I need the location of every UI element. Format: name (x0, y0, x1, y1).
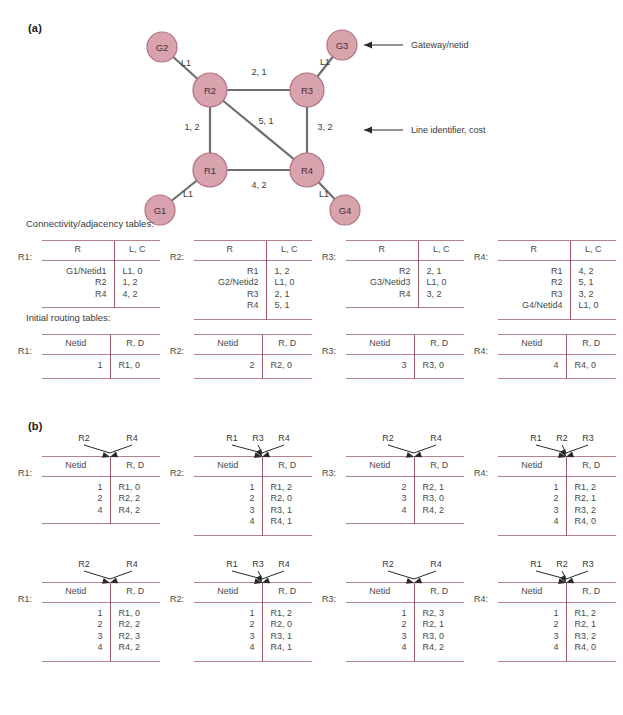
table-cell-key: 4 (194, 516, 262, 528)
table-cell-key: 2 (194, 619, 262, 631)
table-spacer (566, 654, 616, 662)
table-header-row: NetidR, D (42, 335, 160, 354)
table-cell-value: 5, 1 (266, 300, 312, 312)
table-header-row: NetidR, D (498, 457, 616, 476)
update-arrow-line (414, 571, 436, 579)
table-header-cell: R (498, 241, 570, 260)
update-arrow-line (536, 445, 566, 453)
table-cell-value: R4, 1 (262, 516, 312, 528)
table-row: 3R3, 2 (498, 631, 616, 643)
update-source-label: R2 (382, 433, 394, 443)
routing-table: NetidR, D1R1, 22R2, 13R3, 24R4, 0 (498, 456, 616, 536)
table-header-row: RL, C (42, 241, 160, 260)
table-cell-key: 3 (346, 493, 414, 505)
update-source-label: R1 (530, 559, 542, 569)
table-cell-value: R3, 0 (414, 360, 464, 372)
table-router-label: R2: (170, 346, 184, 356)
table-header-cell: Netid (346, 583, 414, 602)
table-spacer (414, 371, 464, 379)
update-arrow-line (232, 571, 262, 579)
table-cell-key: 1 (194, 482, 262, 494)
table-row: 1R1, 2 (194, 608, 312, 620)
table-row: 2R2, 2 (42, 493, 160, 505)
table-row: 4R4, 0 (498, 516, 616, 528)
table-header-cell: R, D (566, 583, 616, 602)
table-spacer (114, 300, 160, 308)
table-cell-key: 2 (346, 482, 414, 494)
table-cell-value: R4, 0 (566, 516, 616, 528)
table-cell-value: R2, 3 (110, 631, 160, 643)
network-node-R2: R2 (193, 73, 227, 107)
table-header-cell: R (42, 241, 114, 260)
table-row: 3R3, 2 (498, 505, 616, 517)
routing-table: NetidR, D4R4, 0 (498, 334, 616, 379)
table-rule (194, 379, 312, 380)
table-spacer (570, 312, 616, 320)
edge-label-G3-R3: L1 (320, 57, 330, 67)
table-cell-value: R1, 2 (262, 608, 312, 620)
table-cell-value: 4, 2 (570, 266, 616, 278)
update-arrow-line (566, 571, 588, 579)
network-node-label: G2 (156, 42, 169, 53)
table-cell-key: 2 (346, 619, 414, 631)
table-spacer (110, 516, 160, 524)
routing-table: NetidR, D1R1, 02R2, 24R4, 2 (42, 456, 160, 524)
table-header-cell: Netid (498, 457, 566, 476)
table-cell-value: R2, 1 (566, 619, 616, 631)
table-row: G2/Netid2L1, 0 (194, 277, 312, 289)
table-cell-value: R4, 2 (110, 505, 160, 517)
table-rule (42, 379, 160, 380)
incoming-update-arrows: R2R4 (368, 558, 526, 584)
table-spacer (346, 300, 418, 308)
routing-table: NetidR, D2R2, 0 (194, 334, 312, 379)
network-node-R3: R3 (290, 73, 324, 107)
table-spacer (566, 528, 616, 536)
edge-label-R2-R3: 2, 1 (251, 67, 266, 77)
table-header-cell: R (346, 241, 418, 260)
table-cell-value: 3, 2 (570, 289, 616, 301)
table-rule (346, 524, 464, 525)
table-row: 2R2, 0 (194, 360, 312, 372)
table-cell-key: 2 (498, 493, 566, 505)
table-cell-key: R3 (498, 289, 570, 301)
network-node-label: G1 (154, 205, 167, 216)
table-cell-key: 3 (194, 505, 262, 517)
table-row: 3R2, 3 (42, 631, 160, 643)
table-header-row: NetidR, D (194, 335, 312, 354)
table-row: 3R3, 1 (194, 505, 312, 517)
update-source-label: R4 (278, 433, 290, 443)
table-cell-value: R2, 0 (262, 619, 312, 631)
table-header-cell: R, D (262, 335, 312, 354)
table-spacer (498, 371, 566, 379)
update-arrow-line (562, 571, 566, 579)
table-spacer (110, 654, 160, 662)
network-topology-diagram: G2G3G1G4R2R3R1R4L1L1L1L12, 11, 23, 25, 1… (120, 20, 520, 235)
update-arrow-line (388, 445, 414, 453)
table-row: 4R4, 1 (194, 516, 312, 528)
table-header-cell: R, D (110, 583, 160, 602)
table-row: 2R2, 0 (194, 619, 312, 631)
table-router-label: R2: (170, 468, 184, 478)
annotation-arrowhead (364, 42, 372, 49)
table-cell-value: R1, 2 (262, 482, 312, 494)
table-row: 1R1, 0 (42, 482, 160, 494)
table-cell-value: R3, 0 (414, 493, 464, 505)
update-source-label: R2 (78, 559, 90, 569)
update-source-label: R3 (582, 433, 594, 443)
table-cell-value: R2, 3 (414, 608, 464, 620)
table-router-label: R3: (322, 252, 336, 262)
update-source-label: R2 (382, 559, 394, 569)
routing-table: NetidR, D1R2, 32R2, 13R3, 04R4, 2 (346, 582, 464, 662)
table-router-label: R3: (322, 468, 336, 478)
incoming-update-arrows: R2R4 (64, 432, 222, 458)
network-node-label: R2 (204, 85, 216, 96)
table-row: G4/Netid4L1, 0 (498, 300, 616, 312)
table-rule (346, 661, 464, 662)
table-row: 4R4, 2 (42, 642, 160, 654)
table-header-cell: R, D (262, 583, 312, 602)
update-arrow-line (258, 445, 262, 453)
network-node-label: G3 (336, 40, 349, 51)
table-cell-value: R4, 2 (110, 642, 160, 654)
table-spacer (42, 300, 114, 308)
table-router-label: R1: (18, 468, 32, 478)
